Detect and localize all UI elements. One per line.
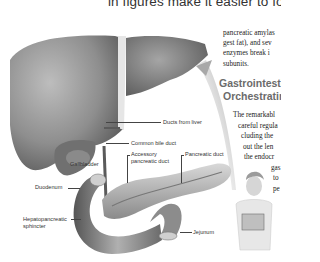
paragraph-1: pancreatic amylas gest fat), and sev enz… xyxy=(223,28,275,69)
label-hepatopancreatic-sphincter: Hepatopancreatic sphincter xyxy=(23,216,67,230)
label-gallbladder: Gallbladder xyxy=(70,161,99,168)
label-common-bile-duct: Common bile duct xyxy=(131,140,176,147)
liver-left-lobe xyxy=(126,36,208,96)
label-duodenum: Duodenum xyxy=(35,184,62,191)
label-jejunum: Jejunum xyxy=(193,229,214,236)
label-ducts-from-liver: Ducts from liver xyxy=(163,119,202,126)
label-accessory-pancreatic-duct: Accessory pancreatic duct xyxy=(131,151,169,165)
paragraph-2: The remarkabl careful regula cluding the… xyxy=(233,110,281,194)
label-pancreatic-duct: Pancreatic duct xyxy=(185,151,224,158)
section-heading: Gastrointestir Orchestratin xyxy=(219,77,281,103)
